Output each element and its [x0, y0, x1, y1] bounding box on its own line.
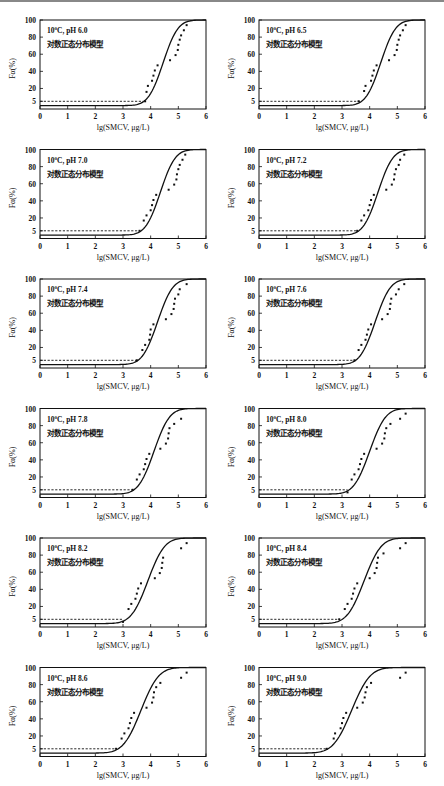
data-point [365, 691, 367, 693]
data-point [161, 567, 163, 569]
panel-title: 100C, pH 7.6 [266, 285, 307, 294]
y-tick-label: 20 [29, 343, 37, 352]
data-point [148, 453, 150, 455]
data-point [183, 29, 185, 31]
data-point [326, 748, 328, 750]
y-tick-label: 60 [29, 180, 37, 189]
model-label: 对数正态分布模型 [47, 687, 104, 697]
data-point [405, 542, 407, 544]
figure: 5204060801000123456lg(SMCV, μg/L)Fα(%)10… [0, 0, 444, 786]
x-axis-label: lg(SMCV, μg/L) [97, 253, 150, 262]
panel-title: 100C, pH 8.0 [266, 415, 307, 424]
panel-title: 100C, pH 8.2 [47, 544, 88, 553]
x-tick-label: 6 [423, 242, 427, 251]
y-tick-label: 20 [248, 732, 256, 741]
x-tick-label: 5 [176, 242, 180, 251]
y-tick-label: 5 [251, 356, 255, 365]
data-point [389, 303, 391, 305]
data-point [396, 49, 398, 51]
y-tick-label: 80 [248, 163, 256, 172]
y-tick-label: 80 [248, 292, 256, 301]
data-point [152, 75, 154, 77]
data-point [175, 54, 177, 56]
data-point [123, 732, 125, 734]
y-tick-label: 60 [248, 698, 256, 707]
data-point [168, 432, 170, 434]
data-point [186, 672, 188, 674]
data-point [389, 308, 391, 310]
data-point [151, 204, 153, 206]
data-point [359, 463, 361, 465]
y-tick-label: 100 [25, 146, 37, 155]
data-point [381, 443, 383, 445]
panel-title: 100C, pH 8.4 [266, 544, 307, 553]
x-tick-label: 1 [66, 760, 70, 769]
data-point [141, 349, 143, 351]
data-point [137, 587, 139, 589]
data-point [143, 468, 145, 470]
x-tick-label: 5 [395, 242, 399, 251]
data-point [121, 738, 123, 740]
model-label: 对数正态分布模型 [47, 298, 104, 308]
x-tick-label: 3 [340, 112, 344, 121]
data-point [356, 707, 358, 709]
data-point [136, 593, 138, 595]
panel-title: 100C, pH 9.0 [266, 674, 307, 683]
model-label: 对数正态分布模型 [266, 298, 323, 308]
data-point [173, 308, 175, 310]
data-point [180, 418, 182, 420]
data-point [370, 323, 372, 325]
x-tick-label: 0 [38, 242, 42, 251]
chart-panel: 5204060801000123456lg(SMCV, μg/L)Fα(%)10… [8, 146, 208, 262]
data-point [130, 717, 132, 719]
data-point [374, 572, 376, 574]
data-point [179, 39, 181, 41]
data-point [356, 582, 358, 584]
data-point [362, 702, 364, 704]
data-point [150, 209, 152, 211]
data-point [365, 339, 367, 341]
x-tick-label: 5 [176, 630, 180, 639]
data-point [144, 344, 146, 346]
y-tick-label: 80 [29, 422, 37, 431]
data-point [170, 313, 172, 315]
x-tick-label: 4 [368, 630, 372, 639]
x-tick-label: 3 [340, 760, 344, 769]
x-tick-label: 2 [312, 371, 316, 380]
model-label: 对数正态分布模型 [266, 687, 323, 697]
x-axis-label: lg(SMCV, μg/L) [97, 512, 150, 521]
y-tick-label: 40 [248, 715, 256, 724]
x-tick-label: 2 [93, 630, 97, 639]
y-tick-label: 100 [244, 146, 256, 155]
data-point [155, 194, 157, 196]
data-point [159, 682, 161, 684]
data-point [363, 453, 365, 455]
x-tick-label: 6 [204, 630, 208, 639]
x-tick-label: 6 [423, 501, 427, 510]
y-tick-label: 100 [244, 534, 256, 543]
data-point [153, 691, 155, 693]
y-axis-label: Fα(%) [8, 446, 17, 467]
data-point [356, 230, 358, 232]
y-tick-label: 5 [32, 227, 36, 236]
data-point [173, 184, 175, 186]
data-point [377, 557, 379, 559]
data-point [149, 334, 151, 336]
x-tick-label: 4 [368, 760, 372, 769]
data-point [173, 423, 175, 425]
chart-panel: 5204060801000123456lg(SMCV, μg/L)Fα(%)10… [227, 664, 427, 780]
x-tick-label: 0 [257, 760, 261, 769]
data-point [177, 44, 179, 46]
data-point [146, 707, 148, 709]
data-point [140, 582, 142, 584]
x-tick-label: 2 [312, 112, 316, 121]
y-tick-label: 40 [248, 67, 256, 76]
data-point [165, 318, 167, 320]
y-tick-label: 40 [29, 326, 37, 335]
data-point [144, 100, 146, 102]
x-tick-label: 2 [93, 242, 97, 251]
x-tick-label: 4 [149, 371, 153, 380]
y-tick-label: 60 [29, 309, 37, 318]
x-tick-label: 2 [312, 242, 316, 251]
y-tick-label: 20 [29, 473, 37, 482]
